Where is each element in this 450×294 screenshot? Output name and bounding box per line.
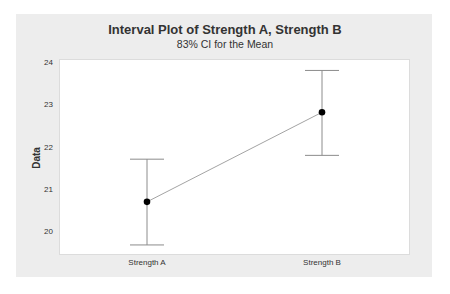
mean-point <box>319 109 326 116</box>
interval-plot <box>0 0 450 294</box>
mean-connect-line <box>147 112 322 202</box>
mean-point <box>144 199 151 206</box>
